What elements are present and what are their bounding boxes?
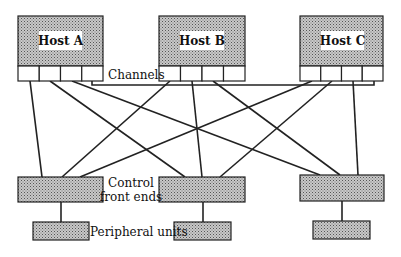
host-a-channels bbox=[18, 66, 103, 81]
control-front-end-1 bbox=[18, 177, 103, 202]
host-c-channel-4 bbox=[362, 66, 383, 81]
host-a-label: Host A bbox=[38, 34, 84, 48]
host-b-channel-4 bbox=[224, 66, 246, 81]
peripheral-unit-1 bbox=[33, 222, 89, 240]
control-front-end-3 bbox=[300, 175, 384, 201]
control-label-line2: front ends bbox=[100, 190, 162, 204]
host-c-channel-1 bbox=[300, 66, 321, 81]
host-a: Host A bbox=[18, 16, 103, 81]
diagram-canvas: Host A Host B Host C Channels bbox=[0, 0, 401, 257]
edge-hostA-cfe3 bbox=[72, 81, 320, 175]
peripheral-label: Peripheral units bbox=[90, 225, 188, 239]
host-c-label: Host C bbox=[320, 34, 365, 48]
host-a-channel-1 bbox=[18, 66, 39, 81]
host-b-label: Host B bbox=[179, 34, 225, 48]
host-b-channel-2 bbox=[181, 66, 203, 81]
host-c: Host C bbox=[300, 16, 383, 81]
edge-hostA-cfe1 bbox=[30, 81, 42, 177]
host-a-channel-4 bbox=[82, 66, 103, 81]
peripheral-units bbox=[33, 221, 370, 240]
host-a-channel-2 bbox=[39, 66, 60, 81]
host-a-channel-3 bbox=[61, 66, 82, 81]
host-b-channels bbox=[159, 66, 245, 81]
control-front-ends bbox=[18, 175, 384, 202]
host-b-channel-3 bbox=[202, 66, 224, 81]
peripheral-unit-3 bbox=[313, 221, 370, 239]
edge-hostC-cfe3 bbox=[353, 81, 358, 175]
channels-label: Channels bbox=[108, 68, 165, 82]
host-b: Host B bbox=[159, 16, 245, 81]
host-c-channel-3 bbox=[342, 66, 363, 81]
edge-hostA-cfe2 bbox=[50, 81, 185, 177]
control-label-line1: Control bbox=[108, 176, 154, 190]
host-c-channel-2 bbox=[321, 66, 342, 81]
control-front-end-2 bbox=[159, 177, 245, 202]
host-c-channels bbox=[300, 66, 383, 81]
